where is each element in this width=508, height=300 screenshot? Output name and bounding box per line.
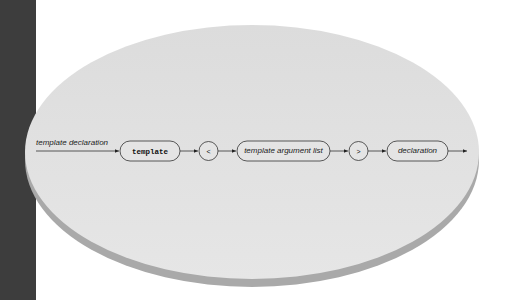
svg-text:template argument list: template argument list [244,146,323,155]
node-declaration: declaration [387,141,448,161]
rule-name-label: template declaration [36,138,109,147]
svg-text:>: > [356,148,360,155]
svg-text:<: < [206,148,210,155]
node-less-than-symbol: < [199,142,218,161]
svg-text:declaration: declaration [398,146,438,155]
node-template-argument-list: template argument list [237,141,330,161]
node-template-keyword: template [120,141,180,161]
syntax-diagram-disc: template declaration template < template… [0,0,508,300]
svg-text:template: template [132,148,169,156]
node-greater-than-symbol: > [349,142,368,161]
